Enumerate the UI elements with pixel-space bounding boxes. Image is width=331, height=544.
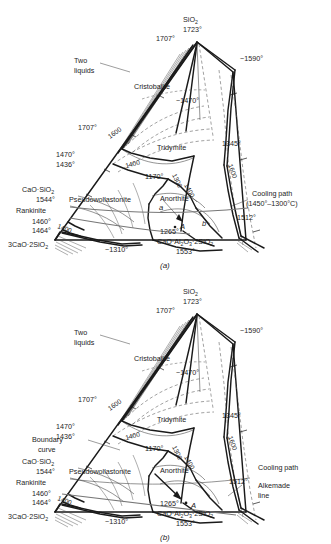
- temp-1470-left-label-b: 1470°: [56, 422, 75, 431]
- temp-1590-label: ~1590°: [240, 54, 263, 63]
- rankinite-label-b: Rankinite: [16, 478, 46, 487]
- temp-1512-label-b: 1512°: [229, 477, 248, 486]
- pseudowollastonite-field-b: [62, 455, 145, 518]
- point-A-marker-b: A: [190, 501, 196, 510]
- point-b-marker: b: [202, 219, 206, 228]
- cao-sio2-label-b: CaO·SiO2: [22, 457, 54, 467]
- 3cao-2sio2-label: 3CaO·2SiO2: [8, 240, 48, 250]
- rankinite-label: Rankinite: [16, 206, 46, 215]
- temp-1512-label: 1512°: [237, 213, 256, 222]
- pseudowollastonite-label: Pseudowollastonite: [69, 195, 131, 204]
- alkemade-line-label-line1: Alkemade: [258, 481, 290, 490]
- temp-1707-apex-label: 1707°: [156, 34, 175, 43]
- cao-al2o3-2sio2-label-b: CaO·Al2O3·2SiO2: [157, 509, 213, 519]
- cristobalite-label: Cristobalite: [134, 82, 170, 91]
- two-liquids-label-line2: liquids: [74, 66, 95, 75]
- two-liquids-label-b-line2: liquids: [74, 338, 95, 347]
- temp-1544-label-b: 1544°: [36, 467, 55, 476]
- isotherm-1600-left-label-b: 1600: [106, 397, 122, 411]
- two-liquids-label-line1: Two: [74, 56, 87, 65]
- point-A-marker: A: [179, 222, 185, 231]
- temp-1553-label-b: 1553°: [176, 519, 195, 528]
- temp-1265-label-b: 1265°: [160, 499, 179, 508]
- temp-1436-left-label: 1436°: [56, 160, 75, 169]
- temp-1470-left-label: 1470°: [56, 150, 75, 159]
- apex-temp-label-b: 1723°: [183, 297, 202, 306]
- temp-1464-label: 1464°: [32, 226, 51, 235]
- panel-b-svg: SiO2 1723° 1707° ~1590° Two liquids Cris…: [0, 272, 331, 544]
- point-a-marker: a: [159, 203, 163, 212]
- temp-1544-label: 1544°: [36, 195, 55, 204]
- apex-temp-label: 1723°: [183, 25, 202, 34]
- temp-1707-left-label-b: 1707°: [78, 395, 97, 404]
- phase-diagram-panel-a: SiO2 1723° 1707° ~1590° Two liquids Cris…: [0, 0, 331, 272]
- temp-1170-label: 1170°: [145, 172, 163, 181]
- two-liquids-label-b-line1: Two: [74, 328, 87, 337]
- temp-1470-inner-label-b: ~1470°: [176, 368, 199, 377]
- tridymite-label-b: Tridymite: [157, 415, 186, 424]
- temp-1345-label-b: 1345°: [222, 411, 241, 420]
- cristobalite-label-b: Cristobalite: [134, 354, 170, 363]
- anorthite-label: Anorthite: [160, 194, 189, 203]
- isotherm-1600-left-label: 1600: [106, 125, 122, 139]
- temp-1553-label: 1553°: [176, 247, 195, 256]
- temp-1707-apex-label-b: 1707°: [156, 306, 175, 315]
- isotherm-1400-mid-label: 1400: [125, 159, 141, 169]
- temp-1345-label: 1345°: [222, 139, 241, 148]
- cooling-path-label-line2: (1450°–1300°C): [246, 199, 298, 208]
- temp-1590-label-b: ~1590°: [240, 326, 263, 335]
- tridymite-label: Tridymite: [157, 143, 186, 152]
- panel-a-caption: (a): [160, 261, 170, 270]
- anorthite-label-b: Anorthite: [160, 466, 189, 475]
- panel-b-caption: (b): [160, 533, 170, 542]
- cooling-path-label-line1: Cooling path: [252, 189, 292, 198]
- boundary-curve-label-line2: curve: [38, 445, 56, 454]
- temp-1265-label: 1265°: [160, 227, 179, 236]
- phase-diagram-panel-b: SiO2 1723° 1707° ~1590° Two liquids Cris…: [0, 272, 331, 544]
- 3cao-2sio2-label-b: 3CaO·2SiO2: [8, 512, 48, 522]
- pseudowollastonite-field: [62, 183, 145, 246]
- isotherm-1300-label-b: 1300: [171, 444, 184, 461]
- apex-formula-label-b: SiO2: [183, 287, 198, 297]
- temp-1310-label: ~1310°: [105, 245, 128, 254]
- temp-1170-label-b: 1170°: [145, 444, 163, 453]
- apex-formula-label: SiO2: [183, 15, 198, 25]
- cooling-path-label-b: Cooling path: [258, 463, 298, 472]
- pseudowollastonite-label-b: Pseudowollastonite: [69, 467, 131, 476]
- temp-1460-label-b: 1460°: [32, 489, 51, 498]
- isotherm-1300-label: 1300: [171, 172, 184, 189]
- boundary-curve-label-line1: Boundary: [32, 435, 63, 444]
- cao-al2o3-2sio2-label: CaO·Al2O3·2SiO2: [157, 237, 213, 247]
- temp-1460-label: 1460°: [32, 217, 51, 226]
- temp-1310-label-b: ~1310°: [105, 517, 128, 526]
- isotherm-1400-mid-label-b: 1400: [125, 431, 141, 441]
- cao-sio2-label: CaO·SiO2: [22, 185, 54, 195]
- temp-1470-inner-label: ~1470°: [176, 96, 199, 105]
- leader-lines: [100, 63, 247, 206]
- alkemade-line-label-line2: line: [258, 491, 269, 500]
- temp-1464-label-b: 1464°: [32, 498, 51, 507]
- temp-1707-left-label: 1707°: [78, 123, 97, 132]
- panel-a-svg: SiO2 1723° 1707° ~1590° Two liquids Cris…: [0, 0, 331, 272]
